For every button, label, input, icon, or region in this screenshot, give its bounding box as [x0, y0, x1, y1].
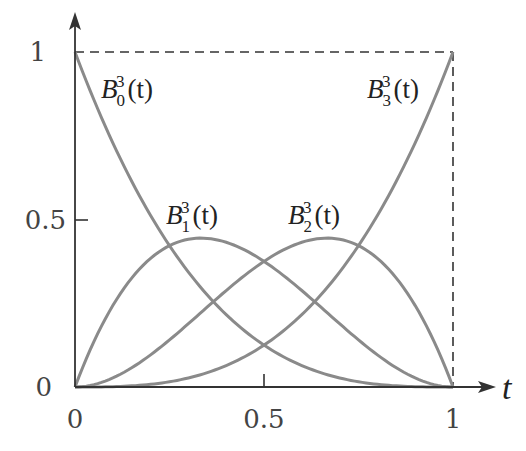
label-b1: B13(t) — [166, 198, 218, 236]
curve-b2 — [75, 238, 453, 387]
label-b0: B03(t) — [101, 72, 153, 110]
y-tick-label-0: 0 — [35, 372, 52, 402]
bernstein-chart: 1 0.5 0 0 0.5 1 t B03(t) B13(t) B23(t) B… — [0, 0, 526, 451]
y-tick-label-1: 1 — [29, 37, 46, 67]
x-tick-label-0: 0 — [67, 404, 84, 434]
y-tick-label-0.5: 0.5 — [25, 205, 66, 235]
x-tick-label-0.5: 0.5 — [243, 404, 284, 434]
label-b3: B33(t) — [367, 72, 419, 110]
label-b2: B23(t) — [288, 198, 340, 236]
x-axis-label: t — [502, 369, 513, 406]
x-tick-label-1: 1 — [445, 404, 462, 434]
